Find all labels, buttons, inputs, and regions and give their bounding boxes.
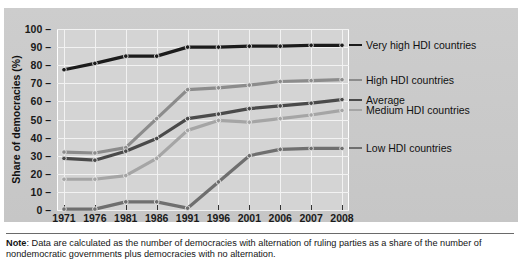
data-point	[309, 101, 314, 106]
series-0	[62, 43, 345, 72]
legend-item-0[interactable]: Very high HDI countries	[349, 39, 476, 51]
data-point	[185, 116, 190, 121]
legend-item-3[interactable]: Medium HDI countries	[349, 104, 470, 116]
y-tick-label: 70 –	[0, 77, 51, 89]
data-point	[309, 146, 314, 151]
x-tick-label: 1971	[52, 212, 75, 224]
legend-leader-line	[349, 79, 362, 81]
x-tick-label: 2006	[269, 212, 292, 224]
data-point	[62, 156, 67, 161]
y-tick-label: 10 –	[0, 186, 51, 198]
legend-leader-line	[349, 147, 362, 149]
data-point	[62, 150, 67, 155]
x-tick-label: 1986	[145, 212, 168, 224]
data-point	[185, 128, 190, 133]
series-line	[64, 45, 342, 69]
note-divider	[6, 233, 514, 234]
data-point	[93, 61, 98, 66]
data-point	[216, 112, 221, 117]
data-point	[309, 78, 314, 83]
data-point	[154, 54, 159, 59]
data-point	[123, 200, 128, 205]
data-point	[62, 67, 67, 72]
series-line	[64, 110, 342, 179]
x-tick-label: 2008	[330, 212, 353, 224]
data-point	[340, 108, 345, 113]
y-tick-label: 100 –	[0, 23, 51, 35]
data-point	[154, 200, 159, 205]
data-point	[123, 54, 128, 59]
legend-label: High HDI countries	[366, 74, 454, 86]
series-3	[62, 108, 345, 181]
note-text: Data are calculated as the number of dem…	[6, 238, 481, 259]
y-tick-label: 40 –	[0, 132, 51, 144]
gridline-horizontal	[57, 210, 349, 211]
x-tick-label: 1996	[207, 212, 230, 224]
data-point	[247, 153, 252, 158]
y-tick-label: 80 –	[0, 59, 51, 71]
data-point	[216, 45, 221, 50]
x-tick-label: 1981	[114, 212, 137, 224]
data-point	[247, 44, 252, 49]
x-tick-label: 2007	[299, 212, 322, 224]
legend-leader-line	[349, 99, 362, 101]
data-point	[278, 104, 283, 109]
data-point	[93, 177, 98, 182]
data-point	[154, 156, 159, 161]
data-point	[62, 207, 67, 212]
data-point	[185, 206, 190, 211]
chart-figure: Share of democracies (%) 0 –10 –20 –30 –…	[0, 0, 522, 265]
note-prefix: Note	[6, 238, 26, 248]
legend-label: Medium HDI countries	[366, 104, 470, 116]
y-tick-label: 0 –	[0, 204, 51, 216]
x-tick-label: 1991	[176, 212, 199, 224]
legend-label: Very high HDI countries	[366, 39, 476, 51]
x-tick-label: 1976	[83, 212, 106, 224]
data-point	[278, 44, 283, 49]
series-lines	[57, 29, 349, 210]
data-point	[93, 158, 98, 163]
data-point	[185, 87, 190, 92]
data-point	[340, 43, 345, 48]
data-point	[216, 180, 221, 185]
data-point	[340, 97, 345, 102]
data-point	[154, 116, 159, 121]
data-point	[278, 116, 283, 121]
data-point	[216, 86, 221, 91]
data-point	[93, 207, 98, 212]
data-point	[93, 151, 98, 156]
data-point	[247, 106, 252, 111]
y-tick-label: 90 –	[0, 41, 51, 53]
legend-leader-line	[349, 109, 362, 111]
y-tick-label: 60 –	[0, 95, 51, 107]
data-point	[309, 113, 314, 118]
data-point	[278, 147, 283, 152]
data-point	[185, 45, 190, 50]
data-point	[340, 77, 345, 82]
data-point	[278, 79, 283, 84]
data-point	[309, 43, 314, 48]
data-point	[340, 146, 345, 151]
y-tick-label: 50 –	[0, 114, 51, 126]
data-point	[123, 173, 128, 178]
y-tick-label: 30 –	[0, 150, 51, 162]
legend-label: Low HDI countries	[366, 142, 452, 154]
data-point	[154, 136, 159, 141]
data-point	[247, 83, 252, 88]
data-point	[216, 118, 221, 123]
data-point	[62, 177, 67, 182]
y-tick-label: 20 –	[0, 168, 51, 180]
chart-note: Note: Data are calculated as the number …	[6, 238, 514, 261]
legend-leader-line	[349, 44, 362, 46]
legend-item-4[interactable]: Low HDI countries	[349, 142, 452, 154]
data-point	[247, 120, 252, 125]
legend-item-1[interactable]: High HDI countries	[349, 74, 454, 86]
x-tick-label: 2001	[238, 212, 261, 224]
data-point	[123, 149, 128, 154]
